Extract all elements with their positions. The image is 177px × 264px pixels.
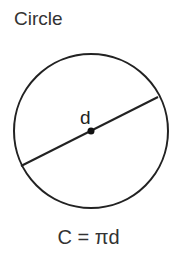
circumference-formula: C = πd bbox=[0, 226, 177, 249]
circle-diagram: d bbox=[0, 0, 177, 264]
center-point bbox=[88, 128, 95, 135]
diameter-label: d bbox=[80, 107, 91, 128]
